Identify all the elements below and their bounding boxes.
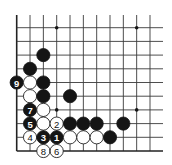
- black-stone-icon: [63, 117, 76, 130]
- white-stone: [37, 103, 50, 116]
- white-stone: [90, 131, 103, 144]
- black-stone-move-9: 9: [10, 76, 23, 89]
- black-stone-icon: [37, 90, 50, 103]
- move-number-label: 6: [54, 146, 59, 157]
- white-stone-move-2: 2: [50, 117, 63, 130]
- black-stone: [37, 76, 50, 89]
- move-number-label: 3: [41, 132, 46, 143]
- black-stone-icon: [90, 117, 103, 130]
- star-point-icon: [55, 108, 59, 112]
- white-stone-move-8: 8: [37, 144, 50, 157]
- white-stone-icon: [63, 131, 76, 144]
- white-stone: [23, 76, 36, 89]
- black-stone: [117, 117, 130, 130]
- white-stone-move-6: 6: [50, 144, 63, 157]
- white-stone-icon: [23, 76, 36, 89]
- black-stone: [37, 90, 50, 103]
- black-stone-icon: [63, 90, 76, 103]
- black-stone: [103, 131, 116, 144]
- black-stone: [77, 117, 90, 130]
- white-stone-move-4: 4: [23, 131, 36, 144]
- black-stone: [23, 62, 36, 75]
- black-stone-move-1: 1: [50, 131, 63, 144]
- black-stone-icon: [23, 62, 36, 75]
- move-number-label: 2: [54, 119, 59, 130]
- black-stone: [63, 117, 76, 130]
- white-stone: [23, 90, 36, 103]
- go-board-diagram: 975243186: [0, 0, 172, 165]
- black-stone-icon: [37, 49, 50, 62]
- move-number-label: 1: [54, 132, 60, 143]
- move-number-label: 7: [27, 105, 32, 116]
- move-number-label: 9: [14, 78, 19, 89]
- white-stone-icon: [37, 103, 50, 116]
- black-stone: [37, 49, 50, 62]
- star-point-icon: [135, 26, 139, 30]
- white-stone: [77, 131, 90, 144]
- white-stone: [63, 131, 76, 144]
- white-stone-icon: [37, 117, 50, 130]
- white-stone-icon: [23, 90, 36, 103]
- black-stone-icon: [103, 131, 116, 144]
- black-stone-move-5: 5: [23, 117, 36, 130]
- star-point-icon: [135, 108, 139, 112]
- black-stone: [90, 117, 103, 130]
- black-stone-icon: [77, 117, 90, 130]
- black-stone-move-3: 3: [37, 131, 50, 144]
- white-stone: [37, 117, 50, 130]
- black-stone-icon: [117, 117, 130, 130]
- black-stone-move-7: 7: [23, 103, 36, 116]
- star-point-icon: [55, 26, 59, 30]
- move-number-label: 5: [27, 119, 33, 130]
- white-stone-icon: [90, 131, 103, 144]
- move-number-label: 4: [27, 132, 32, 143]
- white-stone-icon: [77, 131, 90, 144]
- black-stone: [63, 90, 76, 103]
- move-number-label: 8: [41, 146, 46, 157]
- black-stone-icon: [37, 76, 50, 89]
